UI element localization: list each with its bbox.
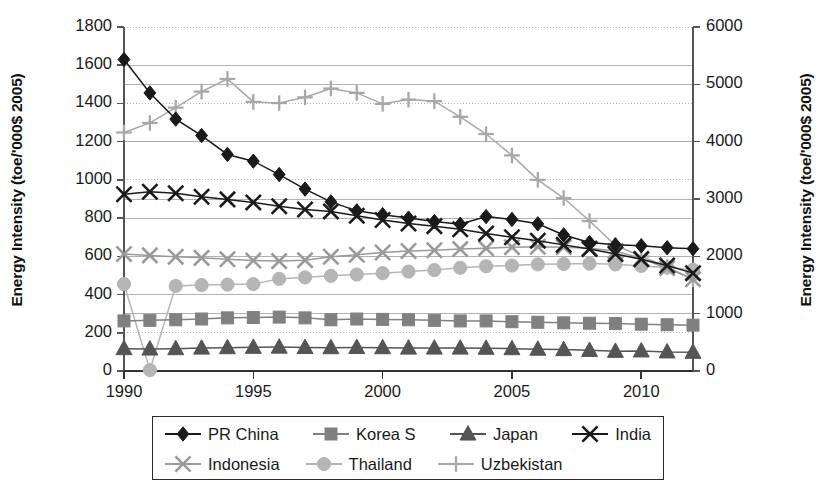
marker-diamond bbox=[177, 427, 189, 441]
legend-label: Uzbekistan bbox=[476, 455, 565, 474]
marker-diamond bbox=[635, 239, 647, 253]
marker-circle bbox=[143, 363, 156, 376]
marker-diamond bbox=[506, 212, 518, 226]
marker-diamond bbox=[222, 147, 234, 161]
marker-circle bbox=[195, 278, 208, 291]
marker-circle bbox=[350, 268, 363, 281]
marker-circle bbox=[247, 277, 260, 290]
legend-label: India bbox=[610, 425, 653, 444]
y-tick-label-left: 0 bbox=[103, 360, 112, 379]
legend-entry-india[interactable]: India bbox=[570, 419, 653, 449]
marker-circle bbox=[317, 457, 330, 470]
marker-square bbox=[221, 312, 233, 324]
marker-triangle bbox=[271, 339, 287, 353]
legend-label: Japan bbox=[488, 425, 540, 444]
y-tick-label-left: 600 bbox=[84, 245, 112, 264]
legend-marker-diamond bbox=[163, 423, 203, 445]
y-tick-label-left: 800 bbox=[84, 207, 112, 226]
legend-row: IndonesiaThailandUzbekistan bbox=[153, 448, 663, 480]
marker-square bbox=[351, 313, 363, 325]
marker-square bbox=[558, 317, 570, 329]
marker-circle bbox=[273, 272, 286, 285]
marker-triangle bbox=[401, 340, 417, 354]
legend-sample-group bbox=[572, 426, 608, 441]
marker-square bbox=[196, 313, 208, 325]
marker-circle bbox=[324, 269, 337, 282]
series-layer bbox=[116, 52, 701, 376]
marker-triangle bbox=[116, 340, 132, 354]
y-tick-label-left: 1800 bbox=[75, 16, 112, 35]
marker-square bbox=[584, 317, 596, 329]
legend-sample-svg bbox=[163, 453, 203, 475]
marker-square bbox=[609, 318, 621, 330]
legend-entry-pr-china[interactable]: PR China bbox=[163, 419, 281, 449]
y-tick-label-left: 400 bbox=[84, 284, 112, 303]
legend-entry-korea-s[interactable]: Korea S bbox=[311, 419, 418, 449]
marker-circle bbox=[298, 271, 311, 284]
legend-sample-svg bbox=[448, 423, 488, 445]
y-tick-label-left: 1000 bbox=[75, 169, 112, 188]
marker-diamond bbox=[247, 154, 259, 168]
marker-circle bbox=[117, 277, 130, 290]
marker-triangle bbox=[460, 426, 476, 440]
marker-triangle bbox=[607, 343, 623, 357]
marker-triangle bbox=[168, 340, 184, 354]
y-tick-label-right: 5000 bbox=[706, 73, 743, 92]
marker-diamond bbox=[299, 182, 311, 196]
marker-square bbox=[687, 319, 699, 331]
legend-entry-indonesia[interactable]: Indonesia bbox=[163, 449, 282, 479]
marker-square bbox=[170, 314, 182, 326]
legend-label: PR China bbox=[203, 425, 281, 444]
legend-entry-uzbekistan[interactable]: Uzbekistan bbox=[436, 449, 565, 479]
marker-triangle bbox=[219, 339, 235, 353]
legend-sample-group bbox=[313, 428, 349, 440]
legend-marker-circle bbox=[304, 453, 344, 475]
marker-square bbox=[403, 314, 415, 326]
y-tick-label-right: 4000 bbox=[706, 131, 743, 150]
legend-sample-svg bbox=[436, 453, 476, 475]
marker-circle bbox=[376, 267, 389, 280]
y-tick-label-left: 1200 bbox=[75, 131, 112, 150]
marker-square bbox=[144, 314, 156, 326]
legend-marker-x bbox=[570, 423, 610, 445]
legend-sample-svg bbox=[163, 423, 203, 445]
marker-triangle bbox=[478, 340, 494, 354]
legend-marker-triangle bbox=[448, 423, 488, 445]
legend-label: Thailand bbox=[344, 455, 414, 474]
legend-entry-thailand[interactable]: Thailand bbox=[304, 449, 414, 479]
marker-triangle bbox=[582, 342, 598, 356]
legend-entry-japan[interactable]: Japan bbox=[448, 419, 540, 449]
marker-square bbox=[428, 314, 440, 326]
marker-triangle bbox=[426, 340, 442, 354]
marker-circle bbox=[557, 257, 570, 270]
marker-circle bbox=[221, 278, 234, 291]
marker-diamond bbox=[480, 209, 492, 223]
marker-diamond bbox=[687, 241, 699, 255]
series-pr-china bbox=[118, 52, 699, 256]
marker-triangle bbox=[349, 339, 365, 353]
series-japan bbox=[116, 339, 701, 359]
marker-triangle bbox=[685, 344, 701, 358]
x-tick-label: 2010 bbox=[611, 382, 671, 401]
marker-triangle bbox=[633, 343, 649, 357]
legend-marker-plus bbox=[436, 453, 476, 475]
marker-square bbox=[506, 316, 518, 328]
marker-circle bbox=[402, 265, 415, 278]
marker-circle bbox=[635, 259, 648, 272]
x-tick-label: 2005 bbox=[482, 382, 542, 401]
legend-label: Indonesia bbox=[203, 455, 282, 474]
marker-triangle bbox=[297, 339, 313, 353]
marker-circle bbox=[505, 259, 518, 272]
marker-triangle bbox=[194, 340, 210, 354]
legend-sample-group bbox=[165, 427, 201, 441]
legend-sample-svg bbox=[570, 423, 610, 445]
marker-triangle bbox=[530, 341, 546, 355]
marker-circle bbox=[479, 260, 492, 273]
marker-square bbox=[480, 315, 492, 327]
marker-triangle bbox=[245, 339, 261, 353]
marker-diamond bbox=[532, 217, 544, 231]
marker-square bbox=[325, 428, 337, 440]
marker-triangle bbox=[659, 343, 675, 357]
marker-square bbox=[377, 313, 389, 325]
marker-square bbox=[532, 316, 544, 328]
